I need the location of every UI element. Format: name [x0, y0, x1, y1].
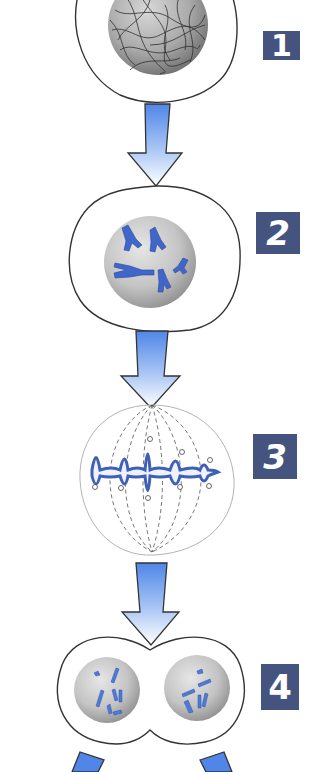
arrow-2-to-3: [121, 331, 180, 408]
arrow-to-daughter-left: [72, 752, 104, 772]
stage-2-cell: [69, 186, 240, 332]
arrow-1-to-2: [128, 104, 182, 186]
stage-1-label: 1: [263, 31, 300, 60]
stage-2-label: 2: [256, 212, 300, 254]
daughter-nucleus-left: [74, 657, 140, 723]
stage-4-cell: [57, 637, 244, 744]
stage-number: 2: [266, 216, 290, 250]
stage-3-label: 3: [253, 434, 297, 479]
daughter-nucleus-right: [164, 655, 230, 721]
mitosis-diagram: [0, 0, 314, 772]
stage-4-label: 4: [261, 664, 299, 710]
stage-number: 3: [263, 440, 287, 474]
stage-3-cell: [80, 405, 234, 555]
arrow-to-daughter-right: [200, 752, 232, 772]
arrow-3-to-4: [122, 563, 179, 645]
stage-number: 1: [271, 31, 292, 61]
stage-1-cell: [76, 0, 237, 102]
stage-number: 4: [268, 670, 292, 704]
